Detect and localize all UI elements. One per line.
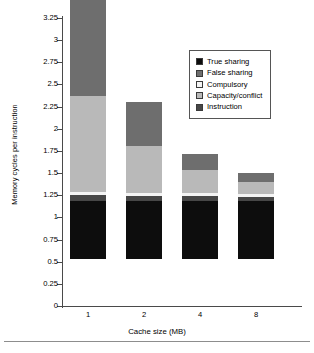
y-axis-tick-label: 0.5 (14, 258, 58, 266)
legend-item: Instruction (196, 102, 262, 113)
y-axis-tick-label: 1.5 (14, 169, 58, 177)
y-axis-tick-label: 0.75 (14, 236, 58, 244)
bar-segment (70, 0, 106, 96)
y-axis-line (62, 16, 63, 308)
x-axis-line (58, 306, 302, 307)
legend-item: Compulsory (196, 79, 262, 90)
y-axis-tick-label: 3 (14, 36, 58, 44)
legend-swatch-icon (196, 81, 203, 88)
stacked-bar-chart: Memory cycles per instruction 3.2532.752… (0, 0, 314, 353)
legend-label: Capacity/conflict (207, 92, 262, 100)
y-axis-tick-label: 0 (14, 302, 58, 310)
y-axis-tick-label: 2 (14, 125, 58, 133)
bar-stack (182, 154, 218, 259)
bar-segment (182, 154, 218, 171)
bar (182, 0, 218, 306)
legend-label: Instruction (207, 103, 242, 111)
bar-segment (126, 146, 162, 193)
bar-segment (238, 173, 274, 182)
bar (126, 0, 162, 306)
bar-segment (182, 170, 218, 193)
bar-segment (126, 102, 162, 145)
bar (238, 0, 274, 306)
legend-item: False sharing (196, 67, 262, 78)
y-axis-tick-label: 1 (14, 213, 58, 221)
bar-stack (70, 0, 106, 259)
x-axis-tick-label: 2 (114, 311, 174, 319)
bar-stack (238, 173, 274, 259)
y-axis-tick-label: 1.25 (14, 191, 58, 199)
y-axis-tick-label: 1.75 (14, 147, 58, 155)
bar (70, 0, 106, 306)
legend-swatch-icon (196, 58, 203, 65)
chart-legend: True sharingFalse sharingCompulsoryCapac… (189, 50, 271, 119)
legend-item: True sharing (196, 56, 262, 67)
y-axis-tick-label: 0.25 (14, 280, 58, 288)
bar-segment (126, 201, 162, 259)
bar-segment (238, 182, 274, 194)
bar-segment (238, 201, 274, 259)
bar-segment (182, 201, 218, 259)
x-axis-title: Cache size (MB) (0, 327, 314, 336)
x-axis-tick-label: 4 (170, 311, 230, 319)
bar-segment (70, 96, 106, 192)
y-axis-tick-label: 3.25 (14, 14, 58, 22)
footer-divider (4, 341, 310, 342)
legend-swatch-icon (196, 104, 203, 111)
y-axis-tick-label: 2.5 (14, 80, 58, 88)
y-axis-tick-label: 2.75 (14, 58, 58, 66)
legend-label: False sharing (207, 69, 253, 77)
legend-swatch-icon (196, 92, 203, 99)
x-axis-tick-label: 8 (226, 311, 286, 319)
legend-item: Capacity/conflict (196, 90, 262, 101)
y-axis-tick-label: 2.25 (14, 103, 58, 111)
legend-label: True sharing (207, 58, 249, 66)
legend-swatch-icon (196, 70, 203, 77)
bar-stack (126, 102, 162, 259)
x-axis-tick-label: 1 (58, 311, 118, 319)
legend-label: Compulsory (207, 81, 248, 89)
bar-segment (70, 201, 106, 259)
